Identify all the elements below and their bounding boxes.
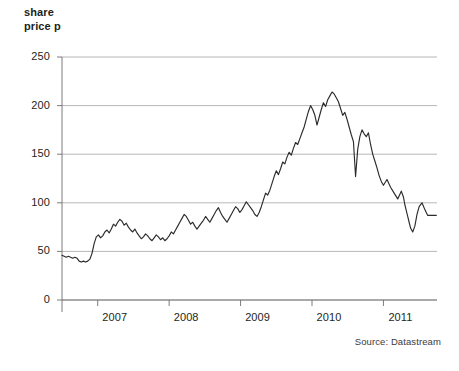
x-axis-tick-label: 2011 — [370, 311, 430, 323]
y-axis-tick-label: 250 — [10, 50, 50, 62]
x-axis-tick-label: 2007 — [85, 311, 145, 323]
y-axis-tick-label: 100 — [10, 196, 50, 208]
price-series-line — [62, 92, 436, 262]
x-axis-tick-label: 2009 — [228, 311, 288, 323]
share-price-chart-figure: share price p Source: Datastream 0501001… — [0, 0, 459, 371]
x-axis-tick-label: 2008 — [156, 311, 216, 323]
y-axis-tick-label: 150 — [10, 147, 50, 159]
x-axis-tick-label: 2010 — [299, 311, 359, 323]
source-note: Source: Datastream — [355, 336, 441, 347]
y-axis-tick-label: 50 — [10, 244, 50, 256]
y-axis-tick-label: 0 — [10, 293, 50, 305]
y-axis-tick-label: 200 — [10, 99, 50, 111]
